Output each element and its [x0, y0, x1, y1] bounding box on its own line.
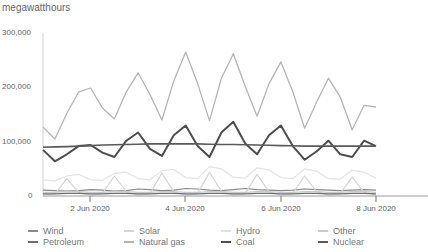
legend-label: Solar: [139, 226, 160, 236]
legend-label: Wind: [43, 226, 64, 236]
legend-label: Natural gas: [139, 237, 185, 247]
legend-swatch-icon: [28, 230, 38, 232]
series-lines: [43, 52, 376, 195]
series-line-coal: [43, 122, 376, 162]
x-tick-label: 4 Jun 2020: [165, 204, 205, 213]
y-axis: 300,000 200,000 100,000 0: [2, 28, 43, 200]
legend-item-wind[interactable]: Wind: [28, 226, 64, 236]
legend-swatch-icon: [318, 230, 328, 232]
line-chart: 300,000 200,000 100,000 0 2 Jun 2020 4 J…: [0, 0, 428, 222]
x-tick-label: 2 Jun 2020: [70, 204, 110, 213]
legend-label: Nuclear: [333, 237, 364, 247]
legend-item-other[interactable]: Other: [318, 226, 356, 236]
legend-item-petroleum[interactable]: Petroleum: [28, 237, 84, 247]
y-tick-label: 100,000: [2, 137, 31, 146]
legend-swatch-icon: [318, 241, 328, 243]
legend-label: Petroleum: [43, 237, 84, 247]
series-line-hydro: [43, 167, 376, 181]
series-line-petroleum: [43, 193, 376, 194]
series-line-wind: [43, 189, 376, 192]
legend-item-solar[interactable]: Solar: [124, 226, 160, 236]
x-axis: 2 Jun 2020 4 Jun 2020 6 Jun 2020 8 Jun 2…: [43, 196, 428, 213]
legend-swatch-icon: [124, 230, 134, 232]
series-line-natural-gas: [43, 52, 376, 139]
legend-label: Hydro: [236, 226, 260, 236]
y-tick-label: 300,000: [2, 28, 31, 37]
legend-swatch-icon: [221, 241, 231, 243]
legend-label: Coal: [236, 237, 255, 247]
legend-item-natural-gas[interactable]: Natural gas: [124, 237, 185, 247]
y-tick-label: 200,000: [2, 82, 31, 91]
legend-item-hydro[interactable]: Hydro: [221, 226, 260, 236]
legend-item-coal[interactable]: Coal: [221, 237, 255, 247]
x-tick-label: 6 Jun 2020: [261, 204, 301, 213]
legend-item-nuclear[interactable]: Nuclear: [318, 237, 364, 247]
legend-label: Other: [333, 226, 356, 236]
y-tick-label: 0: [28, 191, 33, 200]
series-line-other: [43, 192, 376, 193]
legend-swatch-icon: [28, 241, 38, 243]
x-tick-label: 8 Jun 2020: [356, 204, 396, 213]
legend-swatch-icon: [124, 241, 134, 243]
legend-swatch-icon: [221, 230, 231, 232]
